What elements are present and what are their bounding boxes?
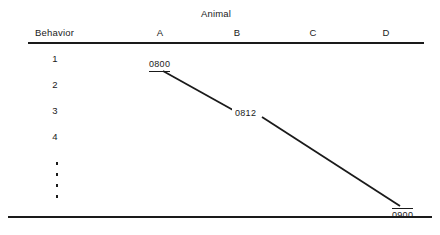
- observation-schedule-figure: Animal Behavior A B C D 1 2 3 4 0800 081…: [0, 0, 440, 235]
- group-title: Animal: [0, 9, 436, 19]
- column-header-c: C: [293, 28, 333, 38]
- row-label-1: 1: [40, 54, 70, 64]
- ellipsis-dot: [56, 195, 59, 198]
- row-label-4: 4: [40, 132, 70, 142]
- ellipsis-dot: [56, 162, 59, 165]
- trace-segment-end: [262, 117, 400, 206]
- footer-rule: [8, 216, 432, 218]
- column-header-d: D: [366, 28, 406, 38]
- ellipsis-dot: [56, 173, 59, 176]
- row-label-2: 2: [40, 80, 70, 90]
- row-label-3: 3: [40, 106, 70, 116]
- column-header-a: A: [140, 28, 180, 38]
- column-header-b: B: [217, 28, 257, 38]
- ellipsis-dot: [56, 184, 59, 187]
- vertical-ellipsis: [53, 162, 61, 198]
- time-annotation-middle: 0812: [232, 108, 259, 119]
- trace-segment-start: [163, 71, 233, 110]
- stub-header-behavior: Behavior: [35, 28, 74, 38]
- time-annotation-start: 0800: [149, 60, 170, 72]
- time-annotation-end: 0900: [392, 208, 413, 220]
- header-rule: [28, 42, 424, 44]
